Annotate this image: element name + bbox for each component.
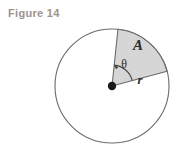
center-point-dot: [108, 82, 116, 90]
circle-sector-diagram: A θ r: [0, 0, 191, 159]
figure-container: Figure 14 A θ r: [0, 0, 191, 159]
area-label: A: [132, 37, 143, 53]
angle-label: θ: [121, 57, 127, 71]
